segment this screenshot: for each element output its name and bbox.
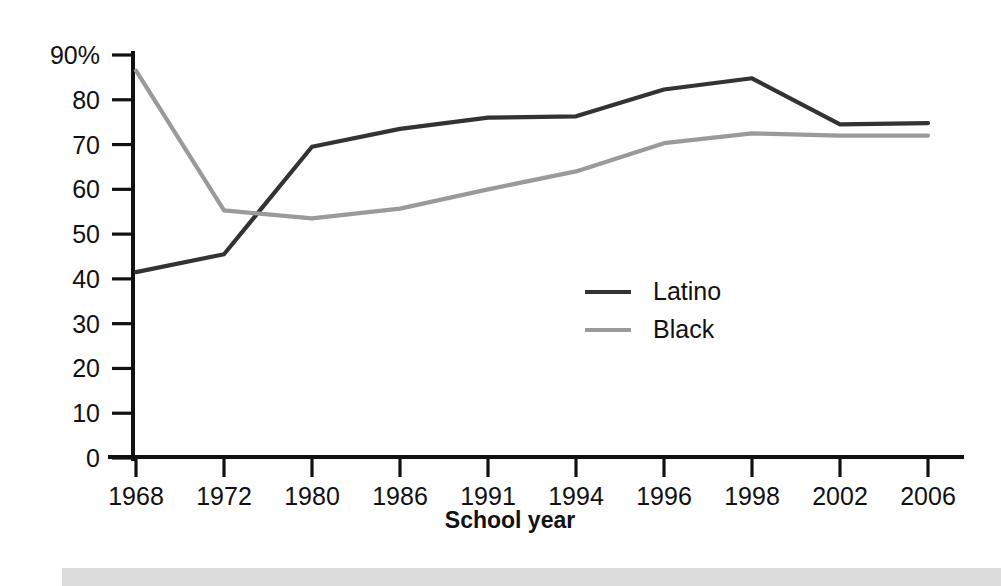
x-tick-label: 1986 (372, 482, 428, 510)
x-tick-label: 1996 (636, 482, 692, 510)
series-line-black (136, 71, 928, 219)
footer-bar (62, 568, 1001, 586)
chart-legend: LatinoBlack (585, 277, 721, 343)
x-axis-title: School year (445, 507, 575, 533)
x-tick-label: 1980 (284, 482, 340, 510)
x-axis-ticks: 1968197219801986199119941996199820022006 (108, 457, 956, 510)
y-tick-label: 80 (72, 86, 100, 114)
y-tick-label: 0 (86, 444, 100, 472)
x-tick-label: 1998 (724, 482, 780, 510)
y-tick-label: 40 (72, 265, 100, 293)
y-tick-label: 60 (72, 175, 100, 203)
x-tick-label: 2002 (812, 482, 868, 510)
y-tick-label: 10 (72, 399, 100, 427)
x-tick-label: 1968 (108, 482, 164, 510)
x-tick-label: 1994 (548, 482, 604, 510)
series-line-latino (136, 78, 928, 272)
line-chart-figure: 90%80706050403020100 1968197219801986199… (0, 0, 1001, 586)
y-tick-label: 20 (72, 354, 100, 382)
y-axis-ticks: 90%80706050403020100 (50, 41, 133, 472)
chart-plot-area: 90%80706050403020100 1968197219801986199… (0, 0, 1001, 586)
legend-label-black: Black (653, 315, 715, 343)
data-series-group (136, 71, 928, 273)
x-tick-label: 1991 (460, 482, 516, 510)
y-tick-label: 90% (50, 41, 100, 69)
y-tick-label: 50 (72, 220, 100, 248)
x-tick-label: 2006 (900, 482, 956, 510)
x-tick-label: 1972 (196, 482, 252, 510)
y-tick-label: 30 (72, 310, 100, 338)
y-tick-label: 70 (72, 131, 100, 159)
legend-label-latino: Latino (653, 277, 721, 305)
